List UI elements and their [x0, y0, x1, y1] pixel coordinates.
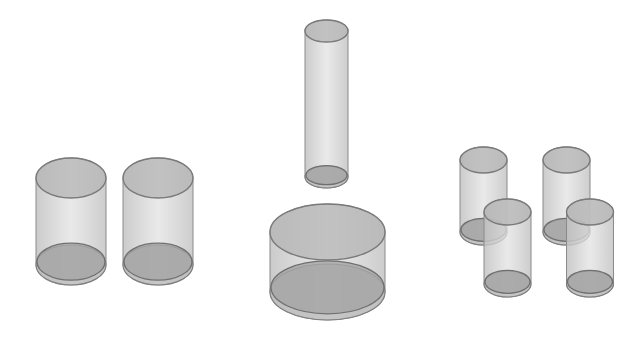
- cylinder-top: [484, 199, 531, 225]
- cylinder-left-2: [123, 158, 193, 285]
- cylinder-top: [567, 199, 614, 225]
- cylinder-top: [36, 158, 106, 198]
- cylinder-right-front-2: [567, 199, 614, 297]
- cylinder-right-front-1: [484, 199, 531, 297]
- group-left: [36, 158, 193, 285]
- cylinder-center-tall: [305, 20, 348, 188]
- group-right: [460, 147, 614, 297]
- cylinder-top: [270, 204, 385, 260]
- cylinder-base: [485, 270, 530, 293]
- group-center: [270, 20, 385, 320]
- cylinder-top: [123, 158, 193, 198]
- cylinder-base: [306, 166, 347, 185]
- cylinder-top: [543, 147, 590, 173]
- cylinder-top: [460, 147, 507, 173]
- cylinder-side: [305, 20, 348, 188]
- cylinder-center-wide: [270, 204, 385, 320]
- cylinder-base: [37, 243, 105, 280]
- cylinder-base: [271, 261, 384, 314]
- cylinders-diagram: [0, 0, 643, 344]
- cylinder-left-1: [36, 158, 106, 285]
- cylinder-base: [124, 243, 192, 280]
- cylinder-top: [305, 20, 348, 42]
- cylinder-base: [568, 270, 613, 293]
